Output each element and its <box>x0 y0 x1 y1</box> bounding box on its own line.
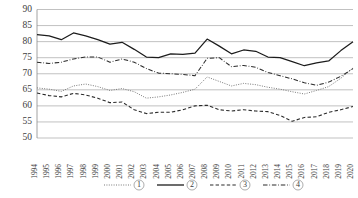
legend-label-2: 2 <box>190 180 194 189</box>
x-tick-label: 2015 <box>285 164 294 179</box>
x-tick-label: 2006 <box>176 164 185 179</box>
x-tick-label: 1999 <box>91 164 100 179</box>
x-tick-label: 2016 <box>297 164 306 179</box>
legend-label-4: 4 <box>296 180 300 189</box>
y-tick-label: 70 <box>23 68 33 78</box>
x-tick-label: 2019 <box>334 164 343 179</box>
x-axis-tick-labels: 1994199519961997199819992000200120022003… <box>30 164 355 179</box>
x-tick-label: 2013 <box>261 164 270 179</box>
x-tick-label: 2009 <box>212 164 221 179</box>
x-tick-label: 2008 <box>200 164 209 179</box>
gridlines <box>37 10 353 139</box>
y-axis-tick-labels: 505560657075808590 <box>23 4 33 143</box>
series-line-2 <box>37 33 353 66</box>
chart-legend: 1234 <box>104 180 303 190</box>
series-line-4 <box>37 57 353 85</box>
x-tick-label: 2004 <box>152 164 161 179</box>
x-tick-label: 2003 <box>139 164 148 179</box>
x-tick-label: 2001 <box>115 164 124 179</box>
x-tick-label: 2020 <box>346 164 355 179</box>
series-line-3 <box>37 93 353 121</box>
y-tick-label: 80 <box>23 36 33 46</box>
y-tick-label: 55 <box>23 116 33 126</box>
y-tick-label: 85 <box>23 20 33 30</box>
x-tick-label: 2011 <box>237 164 246 179</box>
line-chart: 505560657075808590 199419951996199719981… <box>0 0 358 198</box>
y-tick-label: 50 <box>23 132 33 142</box>
data-series-group <box>37 33 353 121</box>
legend-label-1: 1 <box>137 180 141 189</box>
y-tick-label: 60 <box>23 100 33 110</box>
x-tick-label: 1994 <box>30 164 39 179</box>
x-tick-label: 2018 <box>322 164 331 179</box>
y-tick-label: 90 <box>23 4 33 14</box>
x-tick-label: 1997 <box>66 164 75 179</box>
x-tick-label: 2005 <box>164 164 173 179</box>
chart-canvas: 505560657075808590 199419951996199719981… <box>0 0 358 198</box>
x-tick-label: 2000 <box>103 164 112 179</box>
y-tick-label: 65 <box>23 84 33 94</box>
y-tick-label: 75 <box>23 52 33 62</box>
x-tick-label: 2012 <box>249 164 258 179</box>
x-tick-label: 1996 <box>54 164 63 179</box>
x-tick-label: 1995 <box>42 164 51 179</box>
x-tick-label: 2007 <box>188 164 197 179</box>
x-tick-label: 1998 <box>79 164 88 179</box>
legend-label-3: 3 <box>243 180 247 189</box>
x-tick-label: 2002 <box>127 164 136 179</box>
x-tick-label: 2017 <box>310 164 319 179</box>
x-tick-label: 2014 <box>273 164 282 179</box>
x-tick-label: 2010 <box>224 164 233 179</box>
